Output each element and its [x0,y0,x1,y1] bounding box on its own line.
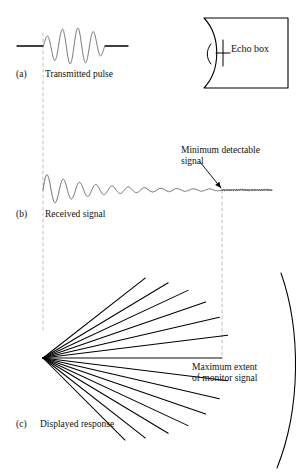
panel-a-caption: Transmitted pulse [45,69,113,80]
panel-b-tag: (b) [16,209,27,220]
guide-lines [43,33,222,358]
monitor-screen-arc [277,273,296,468]
sweep-ray-9 [43,358,206,414]
sweep-ray-1 [43,283,168,358]
echo-box-label: Echo box [231,43,269,54]
sweep-ray-5 [43,335,228,358]
sweep-ray-10 [43,358,188,426]
sweep-ray-2 [43,290,188,358]
transmitted-pulse-trace [17,28,128,64]
monitor-arc-curve [277,273,296,468]
received-signal-trace [43,175,272,203]
panel-c-caption: Displayed response [40,419,114,430]
panel-a-tag: (a) [16,69,27,80]
minimum-detectable-signal-label: Minimum detectable signal [181,145,260,166]
feed-arc [207,44,211,64]
maximum-extent-label: Maximum extent of monitor signal [192,362,257,383]
panel-b-caption: Received signal [45,209,105,220]
panel-c-tag: (c) [16,419,27,430]
sweep-ray-3 [43,302,206,358]
received-waveform [43,175,272,203]
displayed-response-fan [43,278,228,440]
transmit-burst [43,28,105,64]
radar-echo-box-figure: (a) Transmitted pulse (b) Received signa… [0,0,306,475]
mds-arrow-head [215,182,221,188]
